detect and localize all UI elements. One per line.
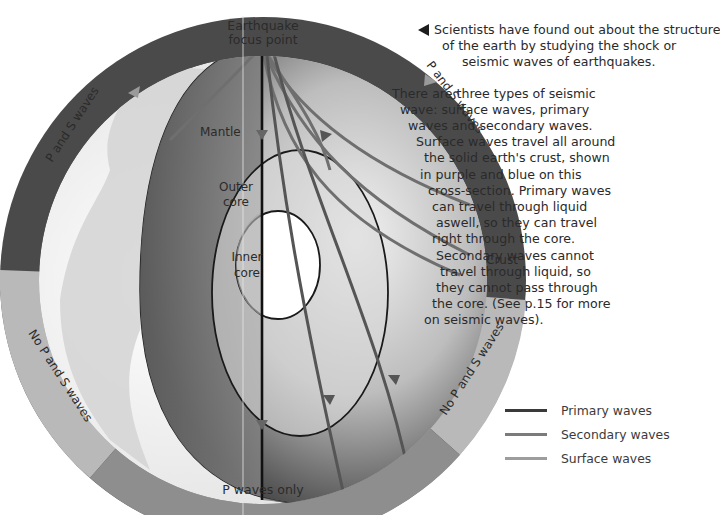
secondary-wave-swatch-icon	[505, 433, 547, 436]
body-line: on seismic waves).	[328, 312, 715, 328]
body-line: can travel through liquid	[328, 199, 715, 215]
zone-label-p-waves-only: P waves only	[222, 482, 304, 497]
body-paragraph: There are three types of seismic wave: s…	[328, 86, 715, 329]
legend-item-surface: Surface waves	[505, 446, 715, 470]
outer-core-label-line1: Outer	[219, 180, 253, 194]
inner-core-label-line2: core	[234, 266, 260, 280]
body-line: right through the core.	[328, 231, 715, 247]
legend-label: Surface waves	[561, 451, 651, 466]
outer-core-label-line2: core	[223, 195, 249, 209]
body-line: There are three types of seismic	[328, 86, 715, 102]
mantle-label: Mantle	[200, 125, 241, 139]
left-pointer-icon	[418, 24, 429, 36]
focus-point-label-line2: focus point	[228, 32, 297, 47]
body-line: cross-section. Primary waves	[328, 183, 715, 199]
intro-line: of the earth by studying the shock or	[434, 38, 720, 54]
surface-wave-swatch-icon	[505, 457, 547, 460]
body-line: the solid earth's crust, shown	[328, 150, 715, 166]
legend-label: Primary waves	[561, 403, 652, 418]
body-line: in purple and blue on this	[328, 167, 715, 183]
intro-paragraph: Scientists have found out about the stru…	[418, 22, 715, 71]
intro-line: Scientists have found out about the stru…	[434, 22, 720, 38]
body-line: wave: surface waves, primary	[328, 102, 715, 118]
body-line: they cannot pass through	[328, 280, 715, 296]
legend: Primary waves Secondary waves Surface wa…	[505, 398, 715, 470]
inner-core-label-line1: Inner	[231, 250, 262, 264]
legend-label: Secondary waves	[561, 427, 670, 442]
body-line: travel through liquid, so	[328, 264, 715, 280]
body-line: aswell, so they can travel	[328, 215, 715, 231]
body-line: Surface waves travel all around	[328, 134, 715, 150]
legend-item-primary: Primary waves	[505, 398, 715, 422]
legend-item-secondary: Secondary waves	[505, 422, 715, 446]
body-line: Secondary waves cannot	[328, 248, 715, 264]
intro-line: seismic waves of earthquakes.	[434, 54, 720, 70]
description-panel: Scientists have found out about the stru…	[418, 22, 715, 329]
primary-wave-swatch-icon	[505, 409, 547, 412]
body-line: waves and secondary waves.	[328, 118, 715, 134]
focus-point-label-line1: Earthquake	[227, 18, 299, 33]
body-line: the core. (See p.15 for more	[328, 296, 715, 312]
